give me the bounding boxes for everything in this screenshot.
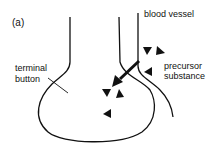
terminal-label-line2: button <box>15 74 40 84</box>
precursor-label-line2: substance <box>164 71 205 81</box>
precursor-triangle <box>156 46 165 55</box>
precursor-triangle <box>102 89 111 97</box>
precursor-triangle <box>103 109 111 118</box>
precursor-label-line1: precursor <box>164 61 202 71</box>
panel-label: (a) <box>12 18 24 28</box>
terminal-label-line1: terminal <box>15 63 47 73</box>
precursor-triangle <box>116 89 124 98</box>
precursor-triangle <box>143 47 152 55</box>
terminal-button-outline <box>38 17 154 142</box>
precursor-triangle <box>144 67 152 76</box>
transport-arrow-shaft <box>120 61 139 79</box>
blood-vessel-label: blood vessel <box>144 9 194 19</box>
